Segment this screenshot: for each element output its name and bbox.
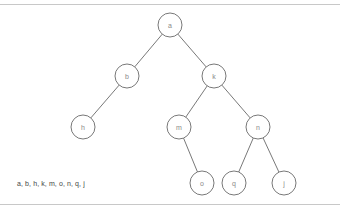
- edge-n-j: [263, 138, 279, 172]
- node-label: h: [81, 124, 85, 131]
- node-o: o: [190, 171, 214, 195]
- node-label: o: [200, 180, 204, 187]
- node-k: k: [202, 64, 226, 88]
- edge-a-k: [178, 34, 206, 67]
- tree-edges: [91, 34, 279, 172]
- node-b: b: [115, 64, 139, 88]
- node-j: j: [272, 171, 296, 195]
- node-label: k: [212, 73, 216, 80]
- node-m: m: [167, 115, 191, 139]
- node-n: n: [246, 115, 270, 139]
- node-label: a: [168, 22, 172, 29]
- node-h: h: [71, 115, 95, 139]
- edge-m-o: [184, 138, 198, 172]
- node-label: n: [256, 124, 260, 131]
- edge-k-m: [186, 86, 207, 117]
- edge-b-h: [91, 85, 119, 118]
- edge-a-b: [135, 34, 163, 67]
- node-q: q: [222, 171, 246, 195]
- node-a: a: [158, 13, 182, 37]
- node-label: j: [282, 180, 285, 188]
- node-label: m: [176, 124, 182, 131]
- node-label: b: [125, 73, 129, 80]
- bottom-rule: [0, 204, 340, 205]
- edge-k-n: [222, 85, 250, 118]
- traversal-caption: a, b, h, k, m, o, n, q, j: [17, 180, 85, 187]
- edge-n-q: [239, 138, 254, 172]
- node-label: q: [232, 180, 236, 188]
